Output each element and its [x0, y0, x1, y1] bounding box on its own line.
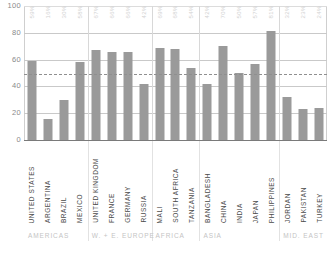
y-tick-label: 20: [12, 109, 21, 117]
bar-slot: 32%: [279, 6, 295, 140]
band-separator: [152, 141, 153, 241]
x-category-label: UNITED STATES: [28, 166, 35, 223]
bar-value-label: 66%: [125, 0, 131, 25]
bar: [91, 50, 100, 140]
bar-value-label: 58%: [77, 0, 83, 25]
bar: [107, 52, 116, 140]
bar-slot: 66%: [104, 6, 120, 140]
bar: [155, 48, 164, 140]
band-separator: [88, 141, 89, 241]
bar: [315, 108, 324, 140]
x-category-label: INDIA: [236, 203, 243, 223]
bar-value-label: 24%: [316, 0, 322, 25]
bar: [139, 84, 148, 140]
x-category-label: RUSSIA: [140, 195, 147, 223]
bar-value-label: 32%: [284, 0, 290, 25]
bar: [123, 52, 132, 140]
x-category-label: JORDAN: [284, 193, 291, 223]
x-category-label: GERMANY: [124, 186, 131, 223]
bar-value-label: 66%: [109, 0, 115, 25]
bar-slot: 81%: [263, 6, 279, 140]
x-category-label: BANGLADESH: [204, 173, 211, 223]
bar-value-label: 67%: [93, 0, 99, 25]
group-band-label: AMERICAS: [28, 232, 69, 239]
bar: [27, 61, 36, 140]
bar-value-label: 57%: [252, 0, 258, 25]
bar-slot: 30%: [56, 6, 72, 140]
y-tick-label: 80: [12, 29, 21, 37]
bar-value-label: 68%: [172, 0, 178, 25]
group-band-label: W. + E. EUROPE: [92, 232, 155, 239]
bar: [267, 31, 276, 140]
bar-value-label: 54%: [188, 0, 194, 25]
bar: [219, 46, 228, 140]
bar: [59, 100, 68, 140]
reference-line-dashed: [24, 74, 327, 75]
x-category-label: MEXICO: [76, 194, 83, 223]
bar-slot: 23%: [295, 6, 311, 140]
y-axis: 020406080100: [0, 6, 24, 140]
bar-value-label: 59%: [29, 0, 35, 25]
x-category-label: TANZANIA: [188, 187, 195, 223]
x-category-label: PHILIPPINES: [268, 177, 275, 223]
bar-slot: 66%: [120, 6, 136, 140]
bar-slot: 69%: [152, 6, 168, 140]
x-category-label: TURKEY: [316, 193, 323, 223]
y-tick-label: 0: [17, 136, 21, 144]
bar: [203, 84, 212, 140]
bar-value-label: 16%: [45, 0, 51, 25]
bar: [299, 109, 308, 140]
bar: [283, 97, 292, 140]
x-category-label: FRANCE: [108, 193, 115, 223]
group-band-labels: AMERICASW. + E. EUROPEAFRICAASIAMID. EAS…: [24, 232, 327, 248]
x-axis-labels: UNITED STATESARGENTINABRAZILMEXICOUNITED…: [24, 141, 327, 225]
bar: [187, 68, 196, 140]
bar-slot: 70%: [215, 6, 231, 140]
y-tick-label: 60: [12, 56, 21, 64]
x-category-label: CHINA: [220, 200, 227, 223]
bar-value-label: 50%: [236, 0, 242, 25]
y-tick-label: 100: [8, 2, 21, 10]
bar-value-label: 69%: [157, 0, 163, 25]
bar-value-label: 42%: [204, 0, 210, 25]
bar-series: 59%16%30%58%67%66%66%42%69%68%54%42%70%5…: [24, 6, 327, 140]
band-separator: [199, 141, 200, 241]
bar-value-label: 23%: [300, 0, 306, 25]
y-tick-label: 40: [12, 82, 21, 90]
x-category-label: ARGENTINA: [44, 180, 51, 223]
bar-slot: 57%: [247, 6, 263, 140]
group-band-label: MID. EAST: [283, 232, 324, 239]
bar-slot: 16%: [40, 6, 56, 140]
x-category-label: SOUTH AFRICA: [172, 168, 179, 223]
bar: [235, 73, 244, 140]
bar-chart: 020406080100 59%16%30%58%67%66%66%42%69%…: [0, 0, 333, 255]
bar-slot: 67%: [88, 6, 104, 140]
plot-area: 59%16%30%58%67%66%66%42%69%68%54%42%70%5…: [24, 6, 327, 140]
x-category-label: UNITED KINGDOM: [92, 158, 99, 223]
group-band-label: ASIA: [203, 232, 221, 239]
x-category-label: BRAZIL: [60, 197, 67, 223]
bar-slot: 59%: [24, 6, 40, 140]
x-category-label: MALI: [156, 206, 163, 223]
bar-slot: 54%: [183, 6, 199, 140]
x-category-label: PAKISTAN: [300, 187, 307, 223]
band-separator: [279, 141, 280, 241]
bar: [43, 119, 52, 140]
bar-slot: 50%: [231, 6, 247, 140]
bar-slot: 24%: [311, 6, 327, 140]
bar-slot: 42%: [136, 6, 152, 140]
bar-slot: 58%: [72, 6, 88, 140]
bar-value-label: 42%: [141, 0, 147, 25]
bar-slot: 68%: [168, 6, 184, 140]
bar: [171, 49, 180, 140]
bar-slot: 42%: [199, 6, 215, 140]
bar-value-label: 30%: [61, 0, 67, 25]
x-category-label: JAPAN: [252, 200, 259, 223]
bar-value-label: 81%: [268, 0, 274, 25]
group-band-label: AFRICA: [156, 232, 185, 239]
bar-value-label: 70%: [220, 0, 226, 25]
